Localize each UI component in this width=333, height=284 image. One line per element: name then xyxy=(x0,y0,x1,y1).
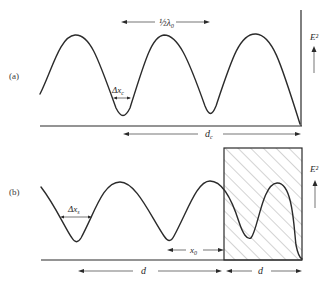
distance-d-left-arrow: d xyxy=(78,265,222,276)
standing-wave-diagram: (a) ½λ₀ Δxc E² xyxy=(0,0,333,284)
delta-x-c-label: Δxc xyxy=(111,85,124,96)
delta-x-s-label: Δxs xyxy=(67,204,80,215)
distance-d-right-arrow: d xyxy=(226,265,302,276)
field-intensity-arrow-b: E² xyxy=(309,164,318,208)
distance-d-left-label: d xyxy=(141,265,147,276)
field-label-b: E² xyxy=(309,164,318,174)
panel-b-label: (b) xyxy=(9,187,20,197)
offset-x0-arrow: x0 xyxy=(167,245,224,256)
half-wavelength-label: ½λ₀ xyxy=(159,17,175,28)
delta-x-c-marker: Δxc xyxy=(111,85,131,100)
panel-a: (a) ½λ₀ Δxc E² xyxy=(9,10,318,140)
field-label-a: E² xyxy=(309,32,318,42)
distance-d-right-label: d xyxy=(258,265,264,276)
delta-x-s-marker: Δxs xyxy=(60,204,92,219)
offset-x0-label: x0 xyxy=(189,245,197,256)
panel-a-label: (a) xyxy=(9,71,19,81)
half-wavelength-arrow: ½λ₀ xyxy=(121,17,210,28)
field-intensity-arrow-a: E² xyxy=(309,32,318,73)
standing-wave-curve-a xyxy=(40,34,300,124)
distance-dc-arrow: dc xyxy=(123,128,301,140)
panel-b: (b) Δxs x0 E² xyxy=(9,148,318,276)
distance-dc-label: dc xyxy=(205,128,213,140)
